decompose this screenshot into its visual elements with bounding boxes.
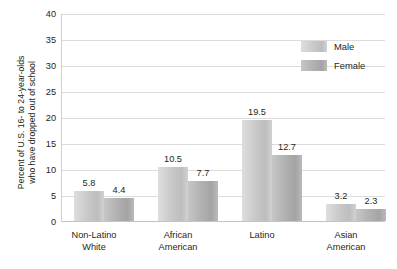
y-tick-label-0: 0	[26, 218, 56, 227]
bar-non-latino-white-male	[74, 191, 104, 221]
x-category-label-line-2: American	[128, 242, 228, 254]
y-tick-label-5: 5	[26, 192, 56, 201]
bar-latino-male	[242, 120, 272, 221]
female-swatch-icon	[301, 60, 327, 71]
legend-label-male: Male	[334, 40, 354, 53]
bar-african-american-female	[188, 181, 218, 221]
bar-value-latino-female: 12.7	[267, 143, 307, 152]
x-category-label-line-2: American	[296, 242, 396, 254]
y-tick-label-35: 35	[26, 36, 56, 45]
legend-label-female: Female	[334, 59, 365, 72]
bar-value-non-latino-white-female: 4.4	[99, 186, 139, 195]
y-tick-label-10: 10	[26, 166, 56, 175]
dropout-rate-bar-chart: Percent of U.S. 16- to 24-year-olds who …	[0, 0, 397, 269]
y-tick-label-30: 30	[26, 62, 56, 71]
x-category-label-line-1: Asian	[296, 230, 396, 242]
bar-value-asian-american-female: 2.3	[351, 197, 391, 206]
bar-asian-american-male	[326, 204, 356, 221]
male-swatch-icon	[301, 41, 327, 52]
bar-asian-american-female	[356, 209, 386, 221]
bar-value-african-american-male: 10.5	[153, 155, 193, 164]
gridline-baseline-0	[62, 221, 385, 222]
bar-value-african-american-female: 7.7	[183, 169, 223, 178]
bar-non-latino-white-female	[104, 198, 134, 221]
y-tick-label-25: 25	[26, 88, 56, 97]
bar-value-latino-male: 19.5	[237, 108, 277, 117]
y-tick-label-15: 15	[26, 140, 56, 149]
x-category-label-asian-american: Asian American	[296, 230, 396, 253]
y-tick-label-40: 40	[26, 10, 56, 19]
bar-latino-female	[272, 155, 302, 221]
y-tick-label-20: 20	[26, 114, 56, 123]
